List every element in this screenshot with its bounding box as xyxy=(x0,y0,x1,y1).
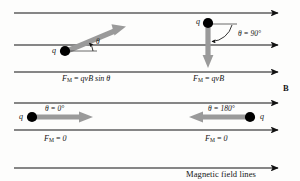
angle-label-parallel: θ = 0° xyxy=(45,105,64,113)
force-formula-oblique: FM = qvB sin θ xyxy=(62,75,110,84)
charge-label-oblique: q xyxy=(52,47,56,55)
panel-oblique-graphics xyxy=(60,24,126,56)
force-formula-parallel: FM = 0 xyxy=(44,135,67,144)
angle-label-oblique: θ xyxy=(96,38,100,46)
charge-dot-antiparallel xyxy=(245,112,255,122)
angle-label-perpendicular: θ = 90° xyxy=(238,30,261,38)
charge-dot-oblique xyxy=(60,46,70,56)
charge-dot-parallel xyxy=(27,112,37,122)
figure-caption: Magnetic field lines xyxy=(186,170,256,179)
angle-label-antiparallel: θ = 180° xyxy=(208,105,235,113)
force-formula-antiparallel: FM = 0 xyxy=(205,135,228,144)
panel-antiparallel-graphics xyxy=(189,111,255,122)
charge-label-perpendicular: q xyxy=(196,18,200,26)
velocity-arrow-antiparallel-head xyxy=(189,111,203,122)
force-formula-perpendicular: FM = qvB xyxy=(193,75,224,84)
panel-parallel-graphics xyxy=(27,111,93,122)
panel-perpendicular-graphics xyxy=(203,18,237,68)
charge-dot-perpendicular xyxy=(203,18,213,28)
angle-arc-perpendicular xyxy=(212,25,232,42)
velocity-arrow-parallel-head xyxy=(79,111,93,122)
angle-arc-oblique xyxy=(90,43,94,51)
charge-label-antiparallel: q xyxy=(260,113,264,121)
magnetic-force-diagram: q θ FM = qvB sin θ q θ = 90° FM = qvB q … xyxy=(0,0,300,181)
velocity-arrow-perpendicular-head xyxy=(203,55,214,68)
diagram-graphics xyxy=(0,0,300,181)
charge-label-parallel: q xyxy=(19,113,23,121)
magnetic-field-label: B xyxy=(283,84,289,93)
